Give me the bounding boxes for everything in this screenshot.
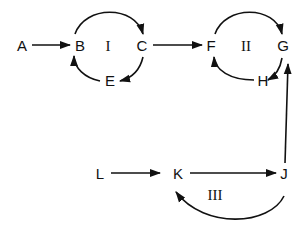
node-c: C [137, 37, 148, 54]
cycle-label-ii: II [241, 38, 251, 54]
node-h: H [258, 72, 269, 89]
edge-e-b [74, 56, 100, 81]
node-b: B [75, 37, 85, 54]
edge-j-g [285, 64, 288, 163]
diagram-canvas: A B C E F G H L K J I II III [0, 0, 303, 234]
edge-b-c [75, 12, 143, 34]
edge-h-f [214, 57, 254, 80]
edge-c-e [120, 57, 143, 81]
node-f: F [206, 37, 215, 54]
cycle-label-iii: III [208, 187, 223, 203]
edge-f-g [215, 12, 282, 34]
edge-g-h [268, 58, 282, 80]
node-k: K [173, 165, 183, 182]
node-e: E [105, 72, 115, 89]
node-g: G [277, 37, 289, 54]
node-j: J [280, 165, 288, 182]
node-a: A [17, 37, 27, 54]
edge-j-k [176, 192, 284, 219]
cycle-label-i: I [106, 38, 111, 54]
node-l: L [96, 165, 104, 182]
